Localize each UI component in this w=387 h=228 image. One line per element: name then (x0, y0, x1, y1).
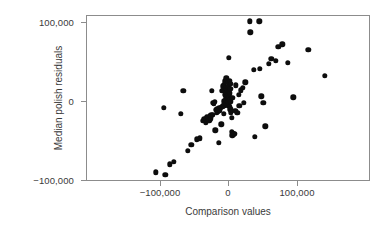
scatter-plot-figure: Median polish residuals 100,000 0 −100,0… (0, 0, 387, 228)
data-point (306, 47, 311, 52)
x-tick-label-100000: 100,000 (279, 187, 314, 198)
data-point (251, 67, 256, 72)
y-tick-label-0: 0 (69, 96, 74, 107)
x-tick-mark-100000 (297, 181, 298, 186)
data-point (180, 88, 185, 93)
data-point (241, 100, 246, 105)
data-point (248, 30, 253, 35)
data-point (240, 85, 245, 90)
data-point (261, 100, 266, 105)
data-point (235, 110, 240, 115)
data-point (291, 95, 296, 100)
data-point (161, 105, 166, 110)
data-point (212, 99, 217, 104)
y-axis-title: Median polish residuals (53, 46, 64, 151)
y-tick-label-neg100000: −100,000 (33, 175, 74, 186)
data-point (153, 170, 158, 175)
x-tick-label-neg100000: −100,000 (140, 187, 181, 198)
data-point (247, 19, 252, 24)
data-point (285, 60, 290, 65)
x-tick-label-0: 0 (225, 187, 230, 198)
data-point (252, 134, 257, 139)
x-axis-title: Comparison values (185, 206, 271, 217)
data-point (219, 121, 224, 126)
data-points-layer (87, 16, 369, 180)
data-point (263, 124, 268, 129)
data-point (163, 172, 168, 177)
data-point (257, 66, 262, 71)
data-point (256, 19, 261, 24)
plot-area (86, 15, 370, 181)
data-point (197, 136, 202, 141)
data-point (266, 61, 271, 66)
data-point (178, 111, 183, 116)
data-point (185, 148, 190, 153)
data-point (189, 142, 194, 147)
data-point (232, 131, 237, 136)
data-point (226, 55, 231, 60)
data-point (243, 80, 248, 85)
data-point (322, 73, 327, 78)
x-tick-mark-0 (228, 181, 229, 186)
data-point (213, 128, 218, 133)
data-point (273, 58, 278, 63)
data-point (236, 92, 241, 97)
data-point (229, 115, 234, 120)
data-point (209, 88, 214, 93)
data-point (230, 95, 235, 100)
y-tick-label-100000: 100,000 (39, 17, 74, 28)
data-point (258, 94, 263, 99)
data-point (216, 140, 221, 145)
data-point (171, 159, 176, 164)
x-tick-mark-neg100000 (160, 181, 161, 186)
data-point (221, 111, 226, 116)
data-point (280, 42, 285, 47)
data-point (228, 86, 233, 91)
